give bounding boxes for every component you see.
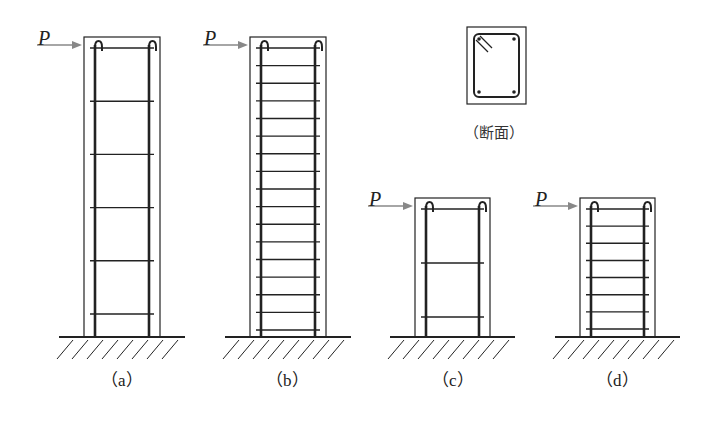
ground-hatch: [268, 340, 284, 359]
ground-hatch: [463, 340, 479, 359]
ground-hatch: [223, 340, 239, 359]
ground-hatch: [72, 340, 88, 359]
ground-hatch: [643, 340, 659, 359]
ground-hatch: [418, 340, 434, 359]
ground-hatch: [433, 340, 449, 359]
ground-hatch: [298, 340, 314, 359]
rebar-dot-icon: [512, 90, 516, 94]
ground-hatch: [283, 340, 299, 359]
ground-hatch: [147, 340, 163, 359]
ground-hatch: [403, 340, 419, 359]
ground-hatch: [87, 340, 103, 359]
rebar-dot-icon: [477, 37, 481, 41]
section-outline: [467, 27, 526, 104]
rebar-dot-icon: [477, 90, 481, 94]
ground-hatch: [568, 340, 584, 359]
ground-hatch: [328, 340, 344, 359]
arrow-head-icon: [238, 41, 248, 49]
ground-hatch: [132, 340, 148, 359]
reinforced-column-diagram: [0, 0, 712, 422]
ground-hatch: [583, 340, 599, 359]
rebar-dot-icon: [512, 37, 516, 41]
arrow-head-icon: [72, 41, 82, 49]
ground-hatch: [117, 340, 133, 359]
ground-hatch: [598, 340, 614, 359]
section-stirrup: [474, 34, 519, 97]
ground-hatch: [658, 340, 674, 359]
ground-hatch: [628, 340, 644, 359]
arrow-head-icon: [403, 202, 413, 210]
ground-hatch: [238, 340, 254, 359]
arrow-head-icon: [568, 202, 578, 210]
ground-hatch: [162, 340, 178, 359]
ground-hatch: [388, 340, 404, 359]
ground-hatch: [613, 340, 629, 359]
ground-hatch: [493, 340, 509, 359]
ground-hatch: [313, 340, 329, 359]
ground-hatch: [553, 340, 569, 359]
ground-hatch: [478, 340, 494, 359]
ground-hatch: [448, 340, 464, 359]
ground-hatch: [253, 340, 269, 359]
ground-hatch: [57, 340, 73, 359]
ground-hatch: [102, 340, 118, 359]
